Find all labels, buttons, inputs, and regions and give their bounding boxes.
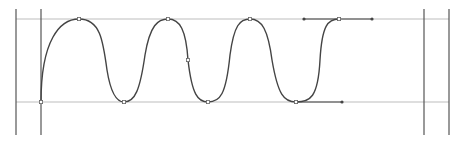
handle-point[interactable] bbox=[302, 17, 305, 20]
frame-lines bbox=[16, 9, 449, 135]
anchor-point[interactable] bbox=[206, 100, 209, 103]
anchor-point[interactable] bbox=[39, 100, 42, 103]
bezier-handles[interactable] bbox=[294, 17, 373, 103]
anchor-point[interactable] bbox=[166, 17, 169, 20]
curve-editor-canvas[interactable] bbox=[0, 0, 460, 144]
guide-lines bbox=[16, 19, 449, 102]
anchor-point[interactable] bbox=[77, 17, 80, 20]
anchor-point[interactable] bbox=[294, 100, 297, 103]
anchor-point[interactable] bbox=[248, 17, 251, 20]
curve-diagram bbox=[0, 0, 460, 144]
anchor-point[interactable] bbox=[337, 17, 340, 20]
handle-point[interactable] bbox=[370, 17, 373, 20]
anchor-point[interactable] bbox=[122, 100, 125, 103]
anchor-point[interactable] bbox=[186, 58, 189, 61]
handle-point[interactable] bbox=[340, 100, 343, 103]
anchor-points[interactable] bbox=[39, 17, 340, 103]
